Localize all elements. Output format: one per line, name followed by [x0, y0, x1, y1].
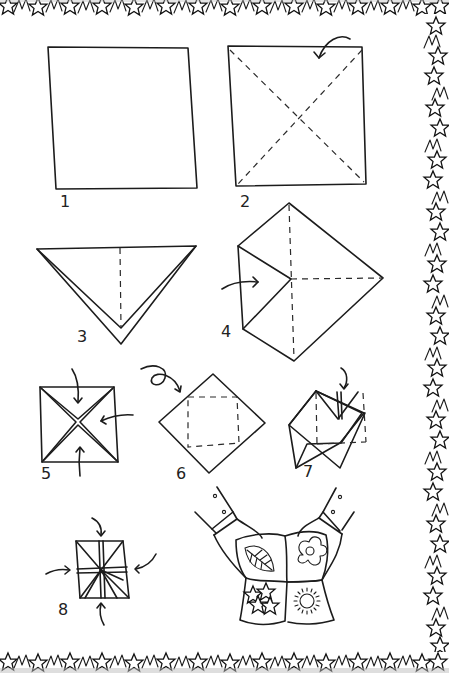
step-number-2: 2 — [240, 194, 250, 210]
final-fortune-teller — [195, 487, 354, 624]
step-4-corner-fold — [222, 203, 383, 361]
step-5-folded-square — [40, 369, 133, 476]
step-6-diamond — [141, 366, 265, 473]
sun-icon — [294, 588, 320, 614]
step-1-square — [48, 47, 197, 189]
arrow-down-icon — [341, 368, 347, 388]
leaf-icon — [245, 546, 274, 571]
border-right — [423, 14, 449, 654]
step-7-folded-diamond — [289, 368, 366, 468]
arrow-left-icon — [101, 415, 133, 421]
step-number-1: 1 — [60, 194, 70, 210]
stars-icon — [244, 583, 279, 614]
step-number-7: 7 — [303, 464, 313, 480]
arrow-down-icon — [92, 518, 101, 535]
step-2-square-diagonals — [228, 37, 366, 186]
border-top — [0, 0, 449, 15]
arrow-down-icon — [72, 369, 78, 402]
step-number-3: 3 — [77, 329, 87, 345]
step-number-8: 8 — [58, 602, 68, 618]
loop-arrow-icon — [141, 366, 180, 391]
arrow-up-icon — [79, 448, 80, 476]
step-number-6: 6 — [176, 466, 186, 482]
step-3-triangle — [37, 246, 196, 344]
step-number-4: 4 — [221, 324, 231, 340]
arrow-left-icon — [136, 554, 156, 569]
step-number-5: 5 — [41, 466, 51, 482]
flower-icon — [298, 537, 327, 565]
